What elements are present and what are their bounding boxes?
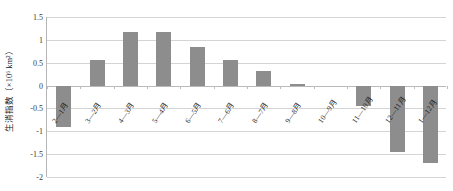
y-axis-title-text: 生消指数（×10⁶ km²）	[5, 46, 14, 132]
y-axis-tick-labels: 1.510.50-0.5-1-1.5-2	[18, 0, 46, 191]
y-axis-tick-label: -1.5	[30, 150, 43, 159]
bar	[256, 71, 271, 86]
y-axis-tick-label: 0	[39, 81, 43, 90]
y-axis-tick-label: 0.5	[33, 58, 43, 67]
bar	[390, 86, 405, 152]
bar	[56, 86, 71, 127]
gridline	[47, 177, 446, 178]
bar	[190, 47, 205, 86]
bar	[356, 86, 371, 107]
bar	[123, 32, 138, 86]
y-axis-tick-label: 1	[39, 35, 43, 44]
bars-layer	[47, 17, 446, 177]
bar	[90, 60, 105, 85]
x-axis-tick-mark	[447, 86, 448, 89]
bar	[223, 60, 238, 86]
y-axis-tick-label: -0.5	[30, 104, 43, 113]
y-axis-tick-label: -2	[36, 173, 43, 182]
y-axis-tick-label: 1.5	[33, 13, 43, 22]
bar	[156, 32, 171, 85]
bar-chart-figure: 生消指数（×10⁶ km²） 1.510.50-0.5-1-1.5-2 2—1月…	[0, 0, 453, 191]
bar	[290, 84, 305, 86]
y-axis-title: 生消指数（×10⁶ km²）	[0, 0, 18, 178]
y-axis-tick-label: -1	[36, 127, 43, 136]
plot-area	[46, 17, 446, 177]
bar	[423, 86, 438, 164]
